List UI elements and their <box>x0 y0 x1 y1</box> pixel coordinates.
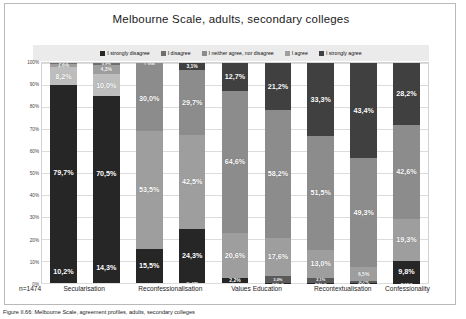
bar-segment-neither[interactable]: 17,6% <box>265 238 292 277</box>
y-axis-tick: 50% <box>30 171 39 176</box>
bar-segment-strongly_disagree[interactable]: 2,2% <box>222 278 249 283</box>
bar-segment-agree[interactable]: 58,2% <box>265 110 292 238</box>
bar-segment-value-label: 19,3% <box>396 236 416 243</box>
legend-swatch-icon <box>202 51 207 56</box>
y-axis-tick: 10% <box>30 259 39 264</box>
y-axis: 0%10%20%30%40%50%60%70%80%90%100% <box>19 62 40 284</box>
bar-segment-neither[interactable]: 13,0% <box>307 250 334 279</box>
bar-segment-neither[interactable]: 8,2% <box>50 67 77 85</box>
legend-swatch-icon <box>161 51 166 56</box>
sample-size-label: n=1474 <box>19 285 41 292</box>
bar-segment-disagree[interactable]: 9,8% <box>393 261 420 283</box>
stacked-bar[interactable]: 21,2%58,2%17,6%3,0%0,07% <box>265 63 292 283</box>
legend-item-0[interactable]: I strongly disagree <box>100 50 149 56</box>
stacked-bar[interactable]: 12,7%64,6%20,6%2,2% <box>222 63 249 283</box>
legend-item-label: I strongly agree <box>326 50 362 56</box>
bar-segment-strongly_agree[interactable]: 43,4% <box>350 63 377 158</box>
x-axis-label-secularisation: Secularisation <box>63 285 104 292</box>
bar-segment-agree[interactable]: 29,7% <box>179 70 206 135</box>
bar-segment-strongly_disagree[interactable]: 10,2% <box>50 261 77 283</box>
bar-segment-value-label: 33,3% <box>311 96 331 103</box>
stacked-bar[interactable]: 0,3%1,6%8,2%79,7%10,2% <box>50 63 77 283</box>
chart-title: Melbourne Scale, adults, secondary colle… <box>5 13 457 25</box>
bar-segment-value-label: 14,3% <box>96 264 116 271</box>
bar-segment-value-label: 49,3% <box>353 209 373 216</box>
bar-segment-value-label: 79,7% <box>53 169 73 176</box>
bar-segment-value-label: 17,6% <box>268 253 288 260</box>
x-axis-label-values-education: Values Education <box>231 285 282 292</box>
bar-segment-value-label: 3,0% <box>273 278 282 282</box>
bar-segment-strongly_agree[interactable]: 3,1% <box>179 63 206 70</box>
bar-segment-agree[interactable]: 49,3% <box>350 158 377 266</box>
bar-segment-disagree[interactable]: 70,5% <box>93 96 120 251</box>
stacked-bar[interactable]: 0,9%4,3%10,0%70,5%14,3% <box>93 63 120 283</box>
bar-segment-agree[interactable]: 4,3% <box>93 65 120 74</box>
bar-segment-disagree[interactable]: 20,6% <box>222 233 249 278</box>
stacked-bar[interactable]: 1,0%30,0%53,5%15,5% <box>136 63 163 283</box>
bar-segment-value-label: 10,0% <box>96 82 116 89</box>
figure-root: Melbourne Scale, adults, secondary colle… <box>0 0 466 319</box>
gridline <box>42 283 428 284</box>
chart-legend: I strongly disagreeI disagreeI neither a… <box>33 45 429 61</box>
legend-item-3[interactable]: I agree <box>285 50 308 56</box>
bar-segment-agree[interactable]: 51,5% <box>307 136 334 249</box>
legend-swatch-icon <box>100 51 105 56</box>
bar-segment-neither[interactable]: 6,5% <box>350 267 377 281</box>
x-axis-label-confessionality: Confessionality <box>385 285 430 292</box>
bar-segment-neither[interactable]: 19,3% <box>393 219 420 261</box>
bar-segment-value-label: 13,0% <box>311 260 331 267</box>
bar-segment-value-label: 42,5% <box>182 178 202 185</box>
bar-segment-disagree[interactable]: 3,0% <box>265 276 292 283</box>
bar-segment-strongly_agree[interactable]: 21,2% <box>265 63 292 110</box>
bar-segment-value-label: 9,8% <box>398 268 414 275</box>
bar-segment-value-label: 12,7% <box>225 73 245 80</box>
stacked-bar[interactable]: 33,3%51,5%13,0%2,1%0,07% <box>307 63 334 283</box>
bar-segment-value-label: 24,3% <box>182 252 202 259</box>
bar-segment-disagree[interactable]: 79,7% <box>50 85 77 260</box>
x-axis-label-recontextualisation: Recontextualisation <box>314 285 372 292</box>
y-axis-tick: 90% <box>30 82 39 87</box>
bar-segment-strongly_agree[interactable]: 33,3% <box>307 63 334 136</box>
y-axis-tick: 20% <box>30 237 39 242</box>
bar-segment-value-label: 30,0% <box>139 95 159 102</box>
bar-segment-value-label: 4,3% <box>101 67 112 72</box>
bar-segment-value-label: 64,6% <box>225 158 245 165</box>
legend-item-4[interactable]: I strongly agree <box>319 50 362 56</box>
bar-segment-value-label: 8,2% <box>55 73 71 80</box>
bar-segment-agree[interactable]: 42,6% <box>393 125 420 219</box>
bar-segment-neither[interactable]: 10,0% <box>93 74 120 96</box>
bar-segment-strongly_disagree[interactable]: 14,3% <box>93 252 120 283</box>
stacked-bar[interactable]: 3,1%29,7%42,5%24,3%0,5% <box>179 63 206 283</box>
bar-segment-agree[interactable]: 12,7% <box>222 63 249 91</box>
bar-segment-strongly_agree[interactable]: 28,2% <box>393 63 420 125</box>
y-axis-tick: 70% <box>30 126 39 131</box>
bar-segment-value-label: 29,7% <box>182 99 202 106</box>
legend-item-label: I disagree <box>168 50 191 56</box>
legend-item-2[interactable]: I neither agree, nor disagree <box>202 50 274 56</box>
bar-segment-value-label: 6,5% <box>358 272 369 277</box>
stacked-bar[interactable]: 43,4%49,3%6,5%0,7%0,07% <box>350 63 377 283</box>
y-axis-tick: 80% <box>30 104 39 109</box>
bar-segment-value-label: 0,5% <box>186 282 197 283</box>
y-axis-tick: 30% <box>30 215 39 220</box>
bar-segment-neither[interactable]: 64,6% <box>222 91 249 233</box>
legend-item-label: I neither agree, nor disagree <box>209 50 274 56</box>
bar-segment-neither[interactable]: 30,0% <box>136 65 163 131</box>
bar-segment-disagree[interactable]: 24,3% <box>179 229 206 282</box>
bar-segment-value-label: 42,6% <box>396 168 416 175</box>
bar-segment-strongly_disagree[interactable]: 15,5% <box>136 249 163 283</box>
bar-segment-value-label: 3,1% <box>186 64 197 69</box>
plot-area: 0,3%1,6%8,2%79,7%10,2%0,9%4,3%10,0%70,5%… <box>41 62 429 284</box>
stacked-bar[interactable]: 28,2%42,6%19,3%9,8%0,15% <box>393 63 420 283</box>
legend-item-label: I strongly disagree <box>107 50 149 56</box>
bar-segment-value-label: 10,2% <box>53 268 73 275</box>
legend-swatch-icon <box>319 51 324 56</box>
bar-segment-neither[interactable]: 42,5% <box>179 135 206 228</box>
bar-segment-value-label: 2,2% <box>229 278 240 283</box>
bar-segment-strongly_disagree[interactable]: 0,5% <box>179 282 206 283</box>
bar-segment-disagree[interactable]: 53,5% <box>136 131 163 249</box>
bar-segment-value-label: 58,2% <box>268 170 288 177</box>
legend-item-1[interactable]: I disagree <box>161 50 191 56</box>
bar-segment-value-label: 15,5% <box>139 262 159 269</box>
bar-segment-value-label: 28,2% <box>396 90 416 97</box>
